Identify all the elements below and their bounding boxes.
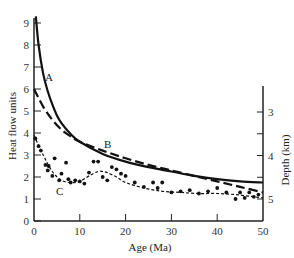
axes: 012345678901020304050345 [24, 17, 275, 237]
y-tick-label: 1 [24, 193, 30, 205]
y-tick-label: 8 [24, 39, 30, 51]
data-point [238, 191, 242, 195]
data-point [247, 191, 251, 195]
data-point [124, 174, 128, 178]
data-point [197, 192, 201, 196]
y-tick-label: 3 [24, 149, 30, 161]
data-point [115, 167, 119, 171]
y2-axis-title: Depth (km) [279, 134, 292, 185]
data-point [133, 181, 137, 185]
x-tick-label: 30 [166, 225, 178, 237]
data-point [110, 165, 114, 169]
curve-a [36, 16, 263, 182]
x-tick-label: 50 [258, 225, 270, 237]
data-point [160, 181, 164, 185]
y2-tick-label: 3 [268, 106, 274, 118]
y-tick-label: 2 [24, 171, 30, 183]
data-point [82, 182, 86, 186]
x-axis-title: Age (Ma) [128, 241, 171, 254]
data-point [73, 178, 77, 182]
y-tick-label: 5 [24, 105, 30, 117]
data-point [179, 189, 183, 193]
data-point [170, 191, 174, 195]
data-point [156, 186, 160, 190]
series-group [34, 16, 263, 198]
data-point [50, 174, 54, 178]
data-point [46, 169, 50, 173]
data-point [92, 160, 96, 164]
data-point [96, 160, 100, 164]
curve-b [34, 89, 263, 192]
data-point [53, 156, 57, 160]
data-point [64, 161, 68, 165]
data-point [69, 181, 73, 185]
heat-flow-chart: 012345678901020304050345 Heat flow units… [0, 0, 294, 258]
data-point [78, 180, 82, 184]
data-point [257, 193, 261, 197]
data-point [60, 172, 64, 176]
data-point [47, 164, 51, 168]
data-point [206, 189, 210, 193]
data-point [151, 181, 155, 185]
x-tick-label: 0 [31, 225, 37, 237]
curve-label-a: A [45, 71, 53, 83]
y-axis-title: Heat flow units [6, 92, 18, 160]
data-point [188, 188, 192, 192]
x-tick-label: 40 [212, 225, 224, 237]
y-tick-label: 7 [24, 61, 30, 73]
data-point [105, 178, 109, 182]
data-point [37, 144, 41, 148]
data-point [87, 171, 91, 175]
y2-tick-label: 5 [268, 193, 274, 205]
y2-tick-label: 4 [268, 150, 274, 162]
y-tick-label: 9 [24, 17, 30, 29]
data-point [252, 195, 256, 199]
data-point [39, 149, 43, 153]
data-point [119, 172, 123, 176]
data-point [234, 197, 238, 201]
data-point [142, 185, 146, 189]
curve-label-b: B [104, 138, 111, 150]
data-point [101, 175, 105, 179]
data-point [243, 196, 247, 200]
scatter-points [33, 137, 260, 201]
curve-label-c: C [56, 185, 63, 197]
y-tick-label: 6 [24, 83, 30, 95]
y-tick-label: 4 [24, 127, 30, 139]
y-tick-label: 0 [24, 215, 30, 227]
data-point [224, 191, 228, 195]
x-tick-label: 20 [120, 225, 132, 237]
data-point [57, 178, 61, 182]
data-point [66, 177, 70, 181]
data-point [215, 186, 219, 190]
x-tick-label: 10 [74, 225, 86, 237]
data-point [33, 137, 37, 141]
